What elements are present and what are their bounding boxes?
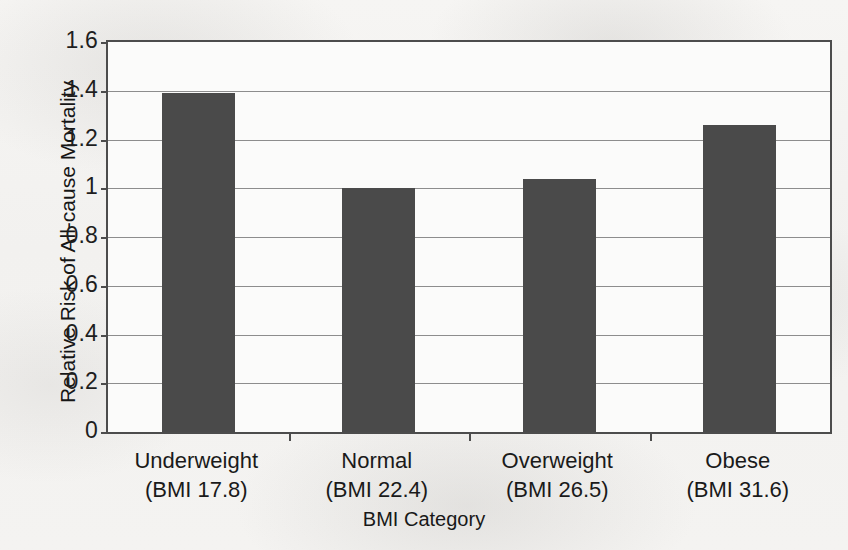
- y-axis-tick: [101, 432, 108, 434]
- y-axis-tick: [101, 335, 108, 337]
- y-axis-tick-label: 1.4: [18, 75, 98, 102]
- category-bmi-value: (BMI 31.6): [648, 475, 829, 504]
- bar: [523, 179, 596, 433]
- y-axis-tick: [101, 383, 108, 385]
- y-axis-tick-label: 0.6: [18, 270, 98, 297]
- y-axis-tick: [101, 188, 108, 190]
- x-axis-category-label: Overweight(BMI 26.5): [467, 446, 648, 504]
- x-axis-category-label: Normal(BMI 22.4): [287, 446, 468, 504]
- category-bmi-value: (BMI 22.4): [287, 475, 468, 504]
- y-axis-tick-label: 0.2: [18, 368, 98, 395]
- bar: [703, 125, 776, 432]
- y-axis-tick: [101, 286, 108, 288]
- x-axis-tick: [650, 432, 652, 441]
- y-axis-tick-label: 1: [18, 173, 98, 200]
- y-axis-tick-label: 0.8: [18, 222, 98, 249]
- category-name: Normal: [341, 448, 412, 473]
- category-bmi-value: (BMI 17.8): [106, 475, 287, 504]
- category-name: Underweight: [134, 448, 258, 473]
- y-axis-tick-label: 1.6: [18, 27, 98, 54]
- y-axis-tick-labels: 1.61.41.210.80.60.40.20: [10, 40, 98, 430]
- y-axis-tick: [101, 237, 108, 239]
- x-axis-title: BMI Category: [0, 508, 848, 531]
- y-axis-tick: [101, 91, 108, 93]
- bar: [342, 188, 415, 432]
- category-name: Overweight: [502, 448, 613, 473]
- y-axis-tick: [101, 42, 108, 44]
- x-axis-tick: [289, 432, 291, 441]
- y-axis-tick-label: 1.2: [18, 124, 98, 151]
- y-axis-tick-label: 0.4: [18, 319, 98, 346]
- y-axis-tick: [101, 140, 108, 142]
- gridline: [108, 91, 830, 92]
- x-axis-category-label: Obese(BMI 31.6): [648, 446, 829, 504]
- bar: [162, 93, 235, 432]
- y-axis-tick-label: 0: [18, 417, 98, 444]
- x-axis-category-label: Underweight(BMI 17.8): [106, 446, 287, 504]
- category-bmi-value: (BMI 26.5): [467, 475, 648, 504]
- x-axis-tick: [469, 432, 471, 441]
- plot-area: [106, 40, 832, 434]
- category-name: Obese: [705, 448, 770, 473]
